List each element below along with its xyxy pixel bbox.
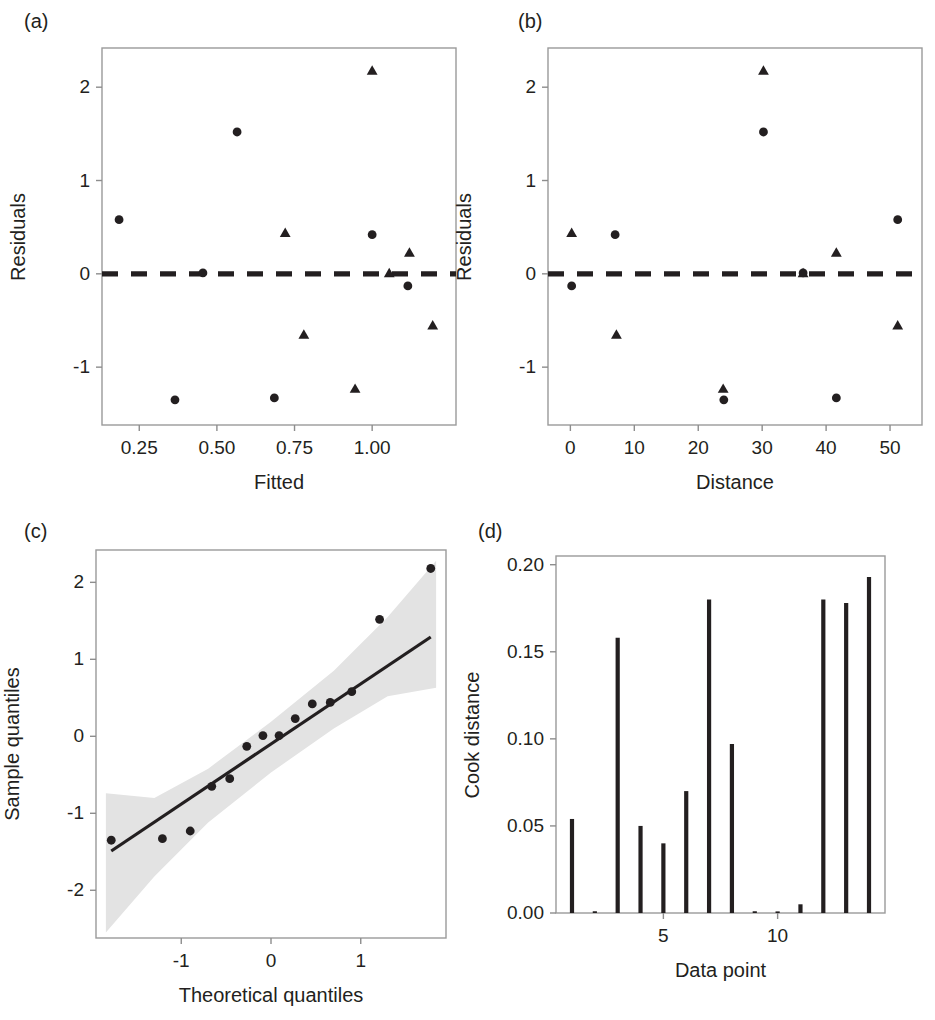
x-axis-title: Theoretical quantiles [179, 984, 364, 1007]
y-tick-label: 1 [525, 170, 536, 192]
y-axis-title: Residuals [7, 193, 30, 281]
y-tick-label: -1 [67, 802, 84, 824]
panel-c: (c) -101-2-1012Theoretical quantilesSamp… [0, 500, 470, 1020]
confidence-band [106, 561, 436, 933]
x-tick-label: 0.50 [198, 437, 235, 459]
x-tick-label: 10 [767, 925, 788, 947]
y-tick-label: 0.05 [507, 815, 544, 837]
y-tick-label: 0 [79, 263, 90, 285]
y-tick-label: 0.15 [507, 641, 544, 663]
qq-fit-line [111, 637, 430, 851]
y-tick-label: 1 [73, 648, 84, 670]
x-tick-label: 1 [355, 950, 366, 972]
x-tick-label: 30 [752, 437, 773, 459]
x-tick-label: 40 [816, 437, 837, 459]
y-tick-label: 0.00 [507, 902, 544, 924]
x-axis-title: Data point [675, 959, 766, 982]
x-tick-label: 0 [266, 950, 277, 972]
panel-b-plot [470, 0, 935, 500]
y-tick-label: -2 [67, 879, 84, 901]
x-tick-label: -1 [173, 950, 190, 972]
x-tick-label: 10 [624, 437, 645, 459]
x-tick-label: 50 [879, 437, 900, 459]
y-axis-title: Residuals [453, 193, 476, 281]
y-axis-title: Sample quantiles [1, 667, 24, 820]
y-axis-title: Cook distance [461, 671, 484, 798]
panel-d-plot [470, 500, 935, 1020]
x-tick-label: 0.25 [121, 437, 158, 459]
x-tick-label: 5 [658, 925, 669, 947]
y-tick-label: 2 [79, 76, 90, 98]
x-tick-label: 0 [565, 437, 576, 459]
panel-d: (d) 5100.000.050.100.150.20Data pointCoo… [470, 500, 935, 1020]
x-tick-label: 0.75 [276, 437, 313, 459]
y-tick-label: 2 [525, 76, 536, 98]
y-tick-label: 2 [73, 571, 84, 593]
y-tick-label: 0.10 [507, 728, 544, 750]
y-tick-label: 0 [73, 725, 84, 747]
x-tick-label: 1.00 [354, 437, 391, 459]
panel-a: (a) 0.250.500.751.00-1012FittedResiduals [0, 0, 470, 500]
panel-b: (b) 01020304050-1012DistanceResiduals [470, 0, 935, 500]
y-tick-label: 0 [525, 263, 536, 285]
figure-canvas: (a) 0.250.500.751.00-1012FittedResiduals… [0, 0, 935, 1020]
x-axis-title: Fitted [254, 471, 304, 494]
y-tick-label: 0.20 [507, 554, 544, 576]
x-axis-title: Distance [696, 471, 774, 494]
x-tick-label: 20 [688, 437, 709, 459]
y-tick-label: 1 [79, 170, 90, 192]
y-tick-label: -1 [73, 356, 90, 378]
y-tick-label: -1 [519, 356, 536, 378]
panel-c-plot [0, 500, 470, 1020]
panel-a-plot [0, 0, 470, 500]
